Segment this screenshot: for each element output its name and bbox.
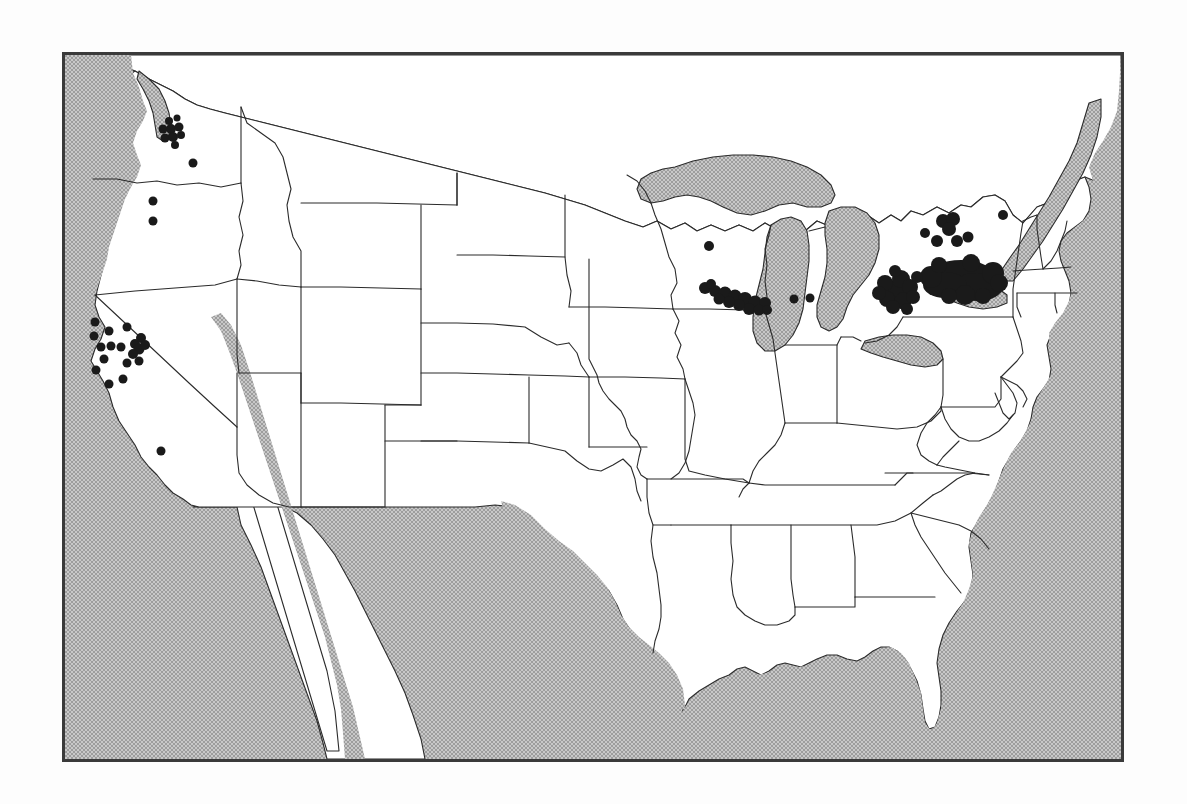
point-central-wi bbox=[704, 241, 714, 251]
point-northern-vt bbox=[998, 210, 1008, 220]
map-frame bbox=[62, 52, 1124, 762]
point-n-indiana-1 bbox=[790, 295, 799, 304]
point-nw-oregon-1 bbox=[149, 197, 158, 206]
distribution-map-svg bbox=[65, 55, 1121, 759]
point-south-coast-ca bbox=[157, 447, 166, 456]
point-central-wa bbox=[189, 159, 198, 168]
figure-page: Outline map of the contiguous United Sta… bbox=[0, 0, 1187, 804]
point-nw-oregon-2 bbox=[149, 217, 158, 226]
point-n-indiana-2 bbox=[806, 294, 815, 303]
